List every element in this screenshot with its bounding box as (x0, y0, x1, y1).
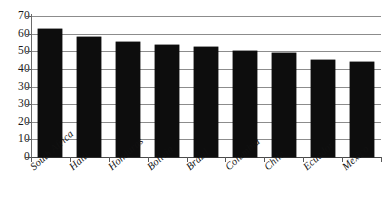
bar-chart: 70605040303020100 South AfricaHaitiHondu… (0, 0, 389, 221)
bar (77, 37, 101, 157)
bar (272, 53, 296, 157)
bar (155, 45, 179, 157)
x-axis-labels: South AfricaHaitiHondurasBoliviaBrazilCo… (0, 162, 389, 221)
bar (194, 47, 218, 157)
bars-container (31, 16, 381, 157)
